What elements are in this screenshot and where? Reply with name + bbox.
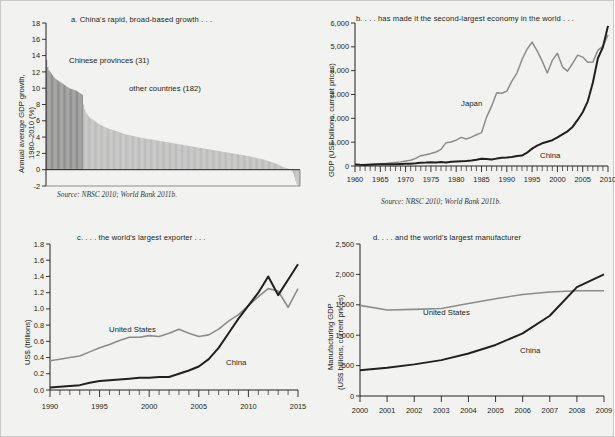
panel-a-bar-country: [248, 156, 249, 170]
panel-b-xtick-label: 1995: [524, 175, 540, 184]
panel-a-label-provinces: Chinese provinces (31): [69, 56, 150, 65]
panel-a-bar-country: [126, 135, 127, 170]
panel-a-bar-country: [295, 170, 296, 181]
panel-a-bar-country: [196, 147, 197, 169]
panel-a-bar-province: [58, 81, 59, 170]
panel-a: a. China's rapid, broad-based growth . .…: [1, 1, 308, 220]
panel-a-bar-province: [73, 90, 74, 170]
panel-a-bar-province: [56, 79, 57, 169]
panel-a-bar-province: [81, 94, 82, 170]
panel-a-bar-country: [242, 155, 243, 170]
panel-d-xtick-label: 2006: [514, 406, 530, 415]
panel-a-bar-country: [180, 144, 181, 169]
panel-a-bar-province: [65, 86, 66, 170]
panel-a-bar-country: [280, 166, 281, 170]
panel-a-bar-country: [269, 162, 270, 170]
panel-a-bar-province: [50, 72, 51, 170]
panel-c-ytick-label: 0.4: [34, 353, 44, 362]
panel-a-bar-country: [206, 149, 207, 170]
panel-a-bar-country: [199, 148, 200, 170]
panel-d-ytick-label: 500: [342, 361, 354, 370]
panel-a-bar-country: [139, 138, 140, 170]
panel-a-bar-country: [279, 165, 280, 169]
panel-c-xtick-label: 1990: [42, 402, 58, 411]
panel-b-xtick-label: 1980: [448, 175, 464, 184]
panel-a-bar-country: [125, 134, 126, 169]
panel-a-bar-country: [122, 133, 123, 169]
panel-a-ytick-label: 18: [32, 19, 40, 28]
panel-d-xtick-label: 2002: [406, 406, 422, 415]
panel-d-xtick-label: 2003: [433, 406, 449, 415]
panel-a-bar-country: [239, 155, 240, 170]
panel-d-ytick-label: 2,500: [336, 240, 355, 249]
panel-a-bar-country: [158, 141, 159, 170]
panel-d-line-united-states: [360, 291, 604, 310]
panel-a-bar-country: [258, 158, 259, 169]
panel-d-xtick-label: 2005: [487, 406, 503, 415]
panel-b-xtick-label: 1965: [372, 175, 388, 184]
panel-a-bar-country: [193, 147, 194, 170]
panel-b-plot: 01,0002,0003,0004,0005,0006,000196019651…: [308, 1, 615, 201]
panel-a-bar-country: [131, 135, 132, 169]
panel-a-bar-country: [164, 142, 165, 170]
panel-a-bar-country: [294, 170, 295, 177]
panel-a-bar-country: [108, 129, 109, 170]
panel-a-bar-province: [57, 80, 58, 170]
panel-a-bar-country: [259, 159, 260, 170]
panel-a-bar-country: [107, 128, 108, 170]
panel-a-ytick-label: 4: [36, 133, 40, 142]
panel-a-bar-country: [232, 153, 233, 169]
panel-a-bar-country: [273, 163, 274, 170]
panel-a-bar-country: [102, 126, 103, 170]
panel-a-bar-country: [226, 152, 227, 169]
panel-a-bar-country: [178, 144, 179, 169]
panel-a-bar-country: [268, 161, 269, 170]
panel-a-bar-country: [89, 118, 90, 170]
panel-d-label-china: China: [520, 346, 541, 355]
panel-d-plot: 05001,0001,5002,0002,5002000200120022003…: [308, 220, 615, 437]
panel-a-bar-country: [213, 150, 214, 170]
panel-b-ytick-label: 0: [345, 162, 349, 171]
panel-a-bar-country: [217, 151, 218, 170]
panel-a-bar-country: [85, 113, 86, 170]
panel-c-xtick-label: 2005: [191, 402, 207, 411]
panel-a-bar-country: [127, 135, 128, 170]
panel-a-bar-country: [118, 132, 119, 170]
panel-a-bar-country: [214, 150, 215, 169]
panel-b-ytick-label: 2,000: [331, 114, 350, 123]
panel-d-ytick-label: 1,000: [336, 331, 355, 340]
panel-a-bar-country: [195, 147, 196, 170]
panel-a-bar-country: [171, 143, 172, 170]
panel-b-ytick-label: 3,000: [331, 90, 350, 99]
panel-d-xtick-label: 2000: [352, 406, 368, 415]
panel-b-ytick-label: 5,000: [331, 42, 350, 51]
panel-a-bar-country: [187, 146, 188, 170]
panel-a-bar-country: [209, 149, 210, 169]
panel-a-bar-country: [133, 136, 134, 170]
panel-c-xtick-label: 2000: [141, 402, 157, 411]
panel-c-ytick-label: 1.6: [34, 256, 44, 265]
panel-d-xtick-label: 2004: [460, 406, 476, 415]
panel-a-ytick-label: 12: [32, 68, 40, 77]
panel-a-bar-country: [221, 152, 222, 170]
panel-a-bar-country: [134, 136, 135, 169]
panel-a-bar-country: [276, 164, 277, 170]
panel-a-bar-country: [194, 147, 195, 170]
panel-a-bar-country: [184, 145, 185, 169]
panel-a-bar-country: [160, 141, 161, 170]
panel-a-bar-country: [271, 162, 272, 169]
panel-a-bar-country: [253, 157, 254, 169]
panel-a-bar-country: [245, 156, 246, 170]
panel-c-ytick-label: 1.0: [34, 304, 44, 313]
panel-a-bar-country: [93, 120, 94, 170]
panel-a-bar-country: [114, 131, 115, 170]
panel-a-bar-country: [191, 146, 192, 169]
panel-a-bar-country: [182, 145, 183, 170]
panel-a-bar-country: [132, 136, 133, 170]
panel-a-bar-country: [129, 135, 130, 169]
panel-b-xtick-label: 1975: [423, 175, 439, 184]
panel-a-bar-province: [76, 91, 77, 170]
panel-a-bar-country: [231, 153, 232, 169]
panel-a-bar-country: [116, 131, 117, 169]
panel-a-bar-country: [249, 156, 250, 169]
